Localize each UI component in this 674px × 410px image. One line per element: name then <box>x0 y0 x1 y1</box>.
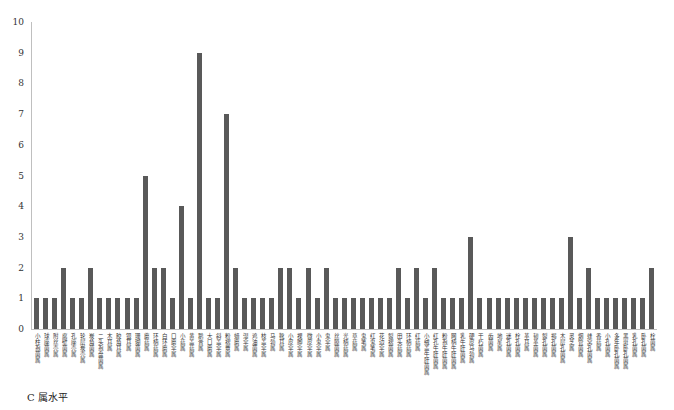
bar <box>296 298 301 329</box>
x-tick-label: 地星属 <box>494 333 503 351</box>
bar <box>106 298 111 329</box>
x-tick-label: 丝膜菌属 <box>331 333 340 357</box>
bar <box>161 268 166 329</box>
x-tick-label: 栓孔菌属 <box>512 333 521 357</box>
x-tick-label: 小皮伞属 <box>285 333 294 357</box>
bar <box>459 298 464 329</box>
bar <box>34 298 39 329</box>
bar <box>115 298 120 329</box>
x-tick-label: 木耳属 <box>104 333 113 351</box>
x-tick-label: 胶角耳属 <box>113 333 122 357</box>
bar <box>604 298 609 329</box>
y-tick-label: 0 <box>0 324 24 334</box>
bar <box>324 268 329 329</box>
x-tick-label: 黄盖菇属 <box>186 333 195 357</box>
bar <box>125 298 130 329</box>
x-tick-label: 大口蘑属 <box>204 333 213 357</box>
x-tick-label: 银耳属 <box>123 333 132 351</box>
x-axis-line <box>31 329 657 330</box>
bar <box>387 298 392 329</box>
x-tick-label: 网柄牛肝菌属 <box>448 333 457 369</box>
x-tick-label: 湿伞属 <box>240 333 249 351</box>
bar <box>405 298 410 329</box>
bar-chart: 012345678910 小柱孢菌属球座菌属附丝壳属腐壁菌属孔座壳属轮层炭壳属炭… <box>0 0 674 410</box>
bar <box>215 298 220 329</box>
x-tick-label: 韧革菌属 <box>530 333 539 357</box>
x-tick-label: 小柱孢菌属 <box>32 333 41 363</box>
x-tick-label: 香菇属 <box>593 333 602 351</box>
bar <box>414 268 419 329</box>
bar <box>79 298 84 329</box>
x-tick-label: 球座菌属 <box>41 333 50 357</box>
y-tick-label: 5 <box>0 171 24 181</box>
x-tick-label: 鸡油菌属 <box>249 333 258 357</box>
bar <box>52 298 57 329</box>
x-tick-label: 栓菌属 <box>647 333 656 351</box>
x-tick-label: 马勃属 <box>267 333 276 351</box>
x-tick-label: 干朽菌属 <box>475 333 484 357</box>
bar <box>360 298 365 329</box>
bar <box>532 298 537 329</box>
bar <box>188 298 193 329</box>
bar <box>206 298 211 329</box>
x-tick-label: 粉褶蕈属 <box>222 333 231 357</box>
bar <box>523 298 528 329</box>
y-tick-label: 1 <box>0 293 24 303</box>
chart-caption: C 属水平 <box>27 389 68 404</box>
x-tick-label: 附丝壳属 <box>50 333 59 357</box>
x-tick-label: 微皮伞属 <box>304 333 313 357</box>
x-tick-label: 白环蘑属 <box>159 333 168 357</box>
x-tick-label: 多年卧孔菌属 <box>611 333 620 369</box>
x-tick-label: 小鬼伞属 <box>313 333 322 357</box>
x-tick-label: 红鬼笔属 <box>367 333 376 357</box>
x-tick-label: 鹅膏属 <box>195 333 204 351</box>
x-tick-label: 齿菌属 <box>485 333 494 351</box>
bar <box>88 268 93 329</box>
bar <box>514 298 519 329</box>
x-tick-label: 裂孔菌属 <box>539 333 548 357</box>
y-tick-label: 7 <box>0 109 24 119</box>
bar <box>61 268 66 329</box>
bar <box>242 298 247 329</box>
bar <box>315 298 320 329</box>
bar <box>351 298 356 329</box>
x-tick-label: 硬皮马勃属 <box>466 333 475 363</box>
bar <box>541 298 546 329</box>
x-tick-label: 木层孔菌属 <box>557 333 566 363</box>
bar <box>505 298 510 329</box>
bar <box>170 298 175 329</box>
bar <box>441 298 446 329</box>
y-tick-label: 9 <box>0 48 24 58</box>
x-tick-label: 田头菇属 <box>394 333 403 357</box>
bar <box>649 268 654 329</box>
bar <box>423 298 428 329</box>
x-tick-label: 炭角菌属 <box>86 333 95 357</box>
bar <box>577 298 582 329</box>
x-tick-label: 环柄菇属 <box>403 333 412 357</box>
bar <box>550 298 555 329</box>
bar <box>251 298 256 329</box>
bar <box>631 298 636 329</box>
x-tick-label: 黑斑卧孔菌属 <box>620 333 629 369</box>
x-tick-label: 粉孢牛肝菌属 <box>439 333 448 369</box>
bar <box>450 298 455 329</box>
x-tick-label: 小绒盖牛肝菌属 <box>421 333 430 375</box>
x-tick-label: 靴耳属 <box>276 333 285 351</box>
bar <box>278 268 283 329</box>
x-tick-label: 枝盖伞属 <box>258 333 267 357</box>
x-tick-label: 乳牛肝菌属 <box>457 333 466 363</box>
x-tick-label: 小孔菌属 <box>602 333 611 357</box>
x-tick-label: 迷孔菌属 <box>503 333 512 357</box>
bar <box>487 298 492 329</box>
y-tick-label: 8 <box>0 78 24 88</box>
y-axis-line <box>31 22 32 329</box>
bar <box>224 114 229 329</box>
x-tick-label: 红孔牛肝菌属 <box>430 333 439 369</box>
bar <box>269 298 274 329</box>
y-tick-label: 4 <box>0 201 24 211</box>
x-tick-label: 口蘑伞属 <box>168 333 177 357</box>
x-tick-label: 光柄菇属 <box>340 333 349 357</box>
bar <box>342 298 347 329</box>
bar <box>179 206 184 329</box>
x-tick-label: 裂褶菌属 <box>385 333 394 357</box>
